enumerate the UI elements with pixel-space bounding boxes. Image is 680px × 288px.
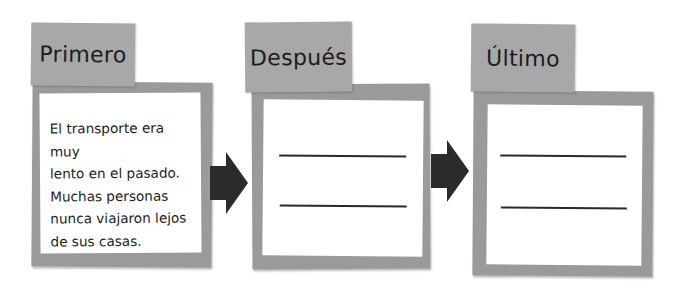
- arrow-right-icon: [431, 140, 471, 202]
- box-ultimo-heading: Último: [471, 23, 576, 92]
- heading-ultimo: Último: [486, 45, 560, 71]
- box-despues-heading: Después: [245, 22, 353, 93]
- answer-line-2[interactable]: [280, 204, 407, 207]
- box-despues-paper: [262, 99, 423, 256]
- box-primero-heading: Primero: [31, 22, 136, 86]
- text-line: lento en el pasado.: [50, 161, 197, 185]
- text-line: de sus casas.: [50, 229, 197, 253]
- box-primero-paper: El transporte era muy lento en el pasado…: [39, 92, 201, 253]
- box-primero-text: El transporte era muy lento en el pasado…: [50, 116, 198, 252]
- answer-line-1[interactable]: [500, 154, 626, 157]
- text-line: Muchas personas: [50, 184, 197, 208]
- heading-despues: Después: [250, 44, 347, 70]
- text-line: nunca viajaron lejos: [50, 206, 197, 230]
- heading-primero: Primero: [39, 42, 126, 68]
- answer-line-1[interactable]: [279, 154, 406, 157]
- answer-line-2[interactable]: [501, 206, 627, 209]
- text-line: El transporte era muy: [50, 116, 197, 162]
- box-ultimo-paper: [486, 104, 642, 265]
- arrow-right-icon: [210, 152, 250, 214]
